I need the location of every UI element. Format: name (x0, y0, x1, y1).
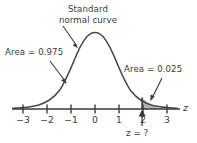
tick-label-1: 1 (111, 115, 127, 125)
right-area-leader (150, 78, 162, 101)
tick-label-3: 3 (159, 115, 175, 125)
curve-title-leader (63, 26, 78, 48)
tick-label-0: 0 (87, 115, 103, 125)
left-area-leader (50, 61, 67, 84)
tick-label-2: 2 (135, 115, 151, 125)
curve-title-line1: Standard (48, 4, 128, 15)
right-area-label: Area = 0.025 (124, 64, 182, 75)
tick-label-neg1: −1 (63, 115, 79, 125)
left-area-label: Area = 0.975 (5, 47, 63, 58)
tick-label-neg3: −3 (15, 115, 31, 125)
z-axis-label: z (183, 102, 188, 113)
tick-label-neg2: −2 (39, 115, 55, 125)
z-query-label: z = ? (126, 128, 148, 138)
normal-curve-figure: Standard normal curve Area = 0.975 Area … (0, 0, 197, 143)
curve-title-line2: normal curve (43, 15, 133, 26)
